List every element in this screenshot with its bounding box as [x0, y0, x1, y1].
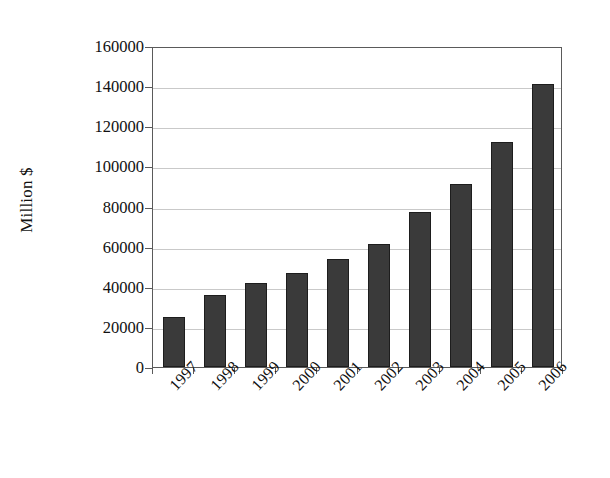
bars-group — [153, 48, 561, 367]
bar — [368, 244, 390, 367]
y-axis-tick-mark — [145, 87, 152, 88]
x-axis-tick-labels: 1997199819992000200120022003200420052006 — [152, 376, 572, 466]
bar-chart-figure: Million $ 020000400006000080000100000120… — [0, 0, 610, 478]
y-axis-tick-marks — [0, 47, 152, 368]
plot-area — [152, 47, 562, 368]
y-axis-tick-mark — [145, 127, 152, 128]
y-axis-tick-mark — [145, 328, 152, 329]
bar — [409, 212, 431, 367]
y-axis-tick-mark — [145, 248, 152, 249]
bar — [245, 283, 267, 367]
y-axis-tick-mark — [145, 208, 152, 209]
bar — [532, 84, 554, 367]
y-axis-tick-mark — [145, 47, 152, 48]
y-axis-tick-mark — [145, 288, 152, 289]
y-axis-tick-mark — [145, 368, 152, 369]
bar — [327, 259, 349, 367]
bar — [491, 142, 513, 367]
bar — [450, 184, 472, 367]
bar — [163, 317, 185, 367]
bar — [204, 295, 226, 367]
bar — [286, 273, 308, 367]
y-axis-tick-mark — [145, 167, 152, 168]
x-axis-tick-mark — [152, 368, 153, 374]
